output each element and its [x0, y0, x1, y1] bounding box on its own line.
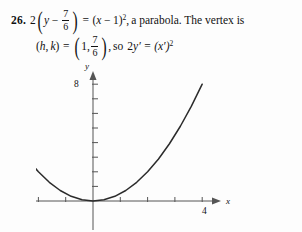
- line1-comma: ,: [126, 15, 129, 27]
- fraction-seven-sixths: 7 6: [62, 9, 69, 32]
- x-axis-label: x: [225, 196, 230, 206]
- graph-svg: y x 8 4: [36, 62, 266, 230]
- rhs-minus-sign: −: [104, 15, 111, 27]
- paren-group-lhs: ( y − 7 6 ): [36, 9, 79, 32]
- vertex-value-fraction: 7 6: [91, 35, 98, 58]
- transformed-rhs-x-prime: (x′): [154, 41, 169, 53]
- x-axis-arrowhead: [212, 198, 221, 205]
- fraction-denominator: 6: [62, 22, 69, 33]
- y-axis-arrowhead: [90, 71, 97, 80]
- solution-line-1: 26. 2 ( y − 7 6 ) = ( x − 1 ) 2 , a para…: [11, 9, 244, 32]
- rhs-close-paren: ): [119, 15, 123, 27]
- problem-number-text: 26.: [11, 14, 26, 26]
- fraction-numerator: 7: [62, 9, 69, 20]
- so-text: so: [113, 41, 123, 53]
- solution-line-2: ( h , k ) = ( 1 , 7 6 ) , so 2 y′ = (x′: [36, 35, 173, 58]
- vertex-close-paren: ): [56, 41, 60, 53]
- parabola-description: a parabola. The vertex is: [131, 15, 244, 27]
- equals-sign: =: [83, 15, 90, 27]
- vertex-value-comma: ,: [87, 41, 90, 53]
- y-tick-label-8: 8: [74, 79, 79, 89]
- x-tick-label-4: 4: [202, 206, 207, 216]
- line2-comma: ,: [108, 41, 111, 53]
- minus-sign: −: [52, 15, 59, 27]
- transformed-variable-y-prime: y′: [133, 41, 141, 53]
- variable-y: y: [44, 15, 49, 27]
- problem-number: 26.: [11, 15, 26, 27]
- vertex-fraction-denominator: 6: [91, 48, 98, 59]
- vertex-value-group: ( 1 , 7 6 ): [73, 35, 108, 58]
- parabola-graph: y x 8 4: [36, 62, 266, 230]
- solution-page: 26. 2 ( y − 7 6 ) = ( x − 1 ) 2 , a para…: [0, 0, 302, 232]
- transformed-equals-sign: =: [144, 41, 151, 53]
- vertex-fraction-numerator: 7: [91, 35, 98, 46]
- y-axis-label: y: [84, 62, 89, 71]
- vertex-equals-sign: =: [63, 41, 70, 53]
- vertex-comma: ,: [46, 41, 49, 53]
- parabola-curve: [36, 84, 202, 201]
- rhs-variable-x: x: [96, 15, 101, 27]
